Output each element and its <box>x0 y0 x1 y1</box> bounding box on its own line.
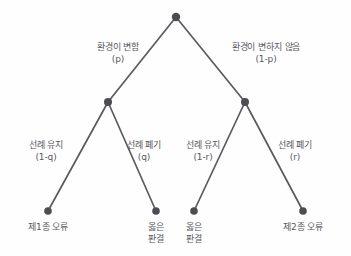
branch-label-root-right-text: 환경이 변하지 않음 <box>204 42 328 54</box>
branch-label-left-keep-text: 선례 유지 <box>10 140 82 152</box>
branch-label-right-keep-probability: (1-r) <box>173 152 233 164</box>
node-mid-left <box>104 98 112 106</box>
node-root <box>172 13 180 21</box>
leaf-label-correct-judgment-right: 옳은 판결 <box>164 222 224 245</box>
branch-label-right-keep-text: 선례 유지 <box>173 140 233 152</box>
branch-label-root-left: 환경이 변함 (p) <box>72 42 164 65</box>
branch-label-left-discard-text: 선례 폐기 <box>114 140 174 152</box>
branch-label-root-right-probability: (1-p) <box>204 54 328 66</box>
leaf-label-type-2-error-line1: 제2종 오류 <box>263 222 343 234</box>
node-leaf-1 <box>44 207 52 215</box>
branch-label-root-left-probability: (p) <box>72 54 164 66</box>
branch-label-left-keep: 선례 유지 (1-q) <box>10 140 82 163</box>
decision-tree-diagram: 환경이 변함 (p) 환경이 변하지 않음 (1-p) 선례 유지 (1-q) … <box>0 0 351 256</box>
branch-label-left-keep-probability: (1-q) <box>10 152 82 164</box>
leaf-label-correct-judgment-right-line1: 옳은 <box>164 222 224 234</box>
branch-label-right-discard-text: 선례 폐기 <box>265 140 325 152</box>
branch-label-right-discard-probability: (r) <box>265 152 325 164</box>
node-mid-right <box>241 98 249 106</box>
node-leaf-3 <box>190 207 198 215</box>
branch-label-right-keep: 선례 유지 (1-r) <box>173 140 233 163</box>
leaf-label-type-2-error: 제2종 오류 <box>263 222 343 234</box>
branch-label-left-discard: 선례 폐기 (q) <box>114 140 174 163</box>
branch-label-right-discard: 선례 폐기 (r) <box>265 140 325 163</box>
node-leaf-2 <box>152 207 160 215</box>
leaf-label-type-1-error: 제1종 오류 <box>8 222 88 234</box>
tree-graphics <box>0 0 351 256</box>
branch-label-root-left-text: 환경이 변함 <box>72 42 164 54</box>
branch-label-left-discard-probability: (q) <box>114 152 174 164</box>
leaf-label-correct-judgment-right-line2: 판결 <box>164 234 224 246</box>
node-leaf-4 <box>299 207 307 215</box>
leaf-label-type-1-error-line1: 제1종 오류 <box>8 222 88 234</box>
branch-label-root-right: 환경이 변하지 않음 (1-p) <box>204 42 328 65</box>
